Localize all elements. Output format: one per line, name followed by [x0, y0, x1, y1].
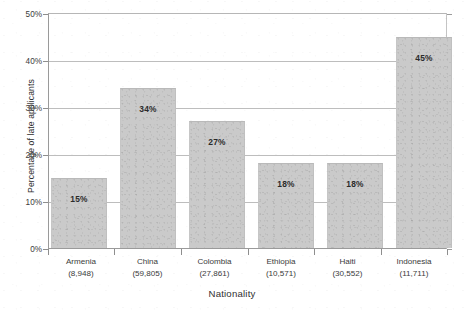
bar-colombia[interactable]: 27% [189, 121, 245, 248]
bar-armenia[interactable]: 15% [51, 178, 107, 249]
x-tick-mark-5 [381, 249, 382, 255]
bar-indonesia[interactable]: 45% [396, 37, 452, 249]
bar-texture [259, 164, 313, 248]
x-category-haiti: Haiti (30,552) [314, 256, 381, 279]
x-category-indonesia: Indonesia (11,711) [381, 256, 447, 279]
bar-haiti[interactable]: 18% [327, 163, 383, 248]
y-tick-label-40: 40% [8, 57, 42, 66]
x-category-count: (30,552) [314, 268, 381, 280]
x-category-china: China (59,805) [114, 256, 181, 279]
x-category-count: (10,571) [248, 268, 314, 280]
bar-texture [397, 38, 451, 249]
x-category-label: Indonesia [396, 257, 431, 266]
y-tick-label-10: 10% [8, 198, 42, 207]
bar-value-haiti: 18% [328, 179, 382, 189]
bar-value-china: 34% [121, 104, 175, 114]
bar-value-indonesia: 45% [397, 53, 451, 63]
x-tick-mark-6 [447, 249, 448, 255]
plot-area: 15% 34% 27% 18% 18% 45% [48, 13, 447, 249]
gridline-10 [49, 202, 446, 203]
x-tick-mark-1 [114, 249, 115, 255]
x-category-count: (27,861) [181, 268, 248, 280]
x-category-armenia: Armenia (8,948) [48, 256, 114, 279]
bar-chart-figure: Percentage of late applicants 0% 10% 20%… [0, 0, 464, 312]
x-category-label: Armenia [66, 257, 96, 266]
bar-texture [52, 179, 106, 249]
x-category-ethiopia: Ethiopia (10,571) [248, 256, 314, 279]
y-tick-label-20: 20% [8, 151, 42, 160]
x-tick-mark-2 [181, 249, 182, 255]
gridline-30 [49, 108, 446, 109]
x-category-count: (8,948) [48, 268, 114, 280]
bar-value-colombia: 27% [190, 137, 244, 147]
x-category-colombia: Colombia (27,861) [181, 256, 248, 279]
x-category-count: (59,805) [114, 268, 181, 280]
y-tick-label-50: 50% [8, 10, 42, 19]
y-axis-title: Percentage of late applicants [26, 51, 36, 221]
x-category-label: Colombia [197, 257, 231, 266]
bar-china[interactable]: 34% [120, 88, 176, 248]
bar-value-ethiopia: 18% [259, 179, 313, 189]
bar-ethiopia[interactable]: 18% [258, 163, 314, 248]
x-category-label: Haiti [339, 257, 355, 266]
gridline-20 [49, 155, 446, 156]
y-tick-mark-right-50 [447, 14, 452, 15]
y-tick-label-30: 30% [8, 104, 42, 113]
gridline-40 [49, 61, 446, 62]
x-axis-title: Nationality [0, 288, 464, 299]
y-tick-label-0: 0% [8, 245, 42, 254]
x-category-label: China [137, 257, 158, 266]
x-tick-mark-4 [314, 249, 315, 255]
bar-value-armenia: 15% [52, 194, 106, 204]
x-tick-mark-0 [48, 249, 49, 255]
x-tick-mark-3 [248, 249, 249, 255]
x-category-label: Ethiopia [266, 257, 295, 266]
x-category-count: (11,711) [381, 268, 447, 280]
bar-texture [328, 164, 382, 248]
